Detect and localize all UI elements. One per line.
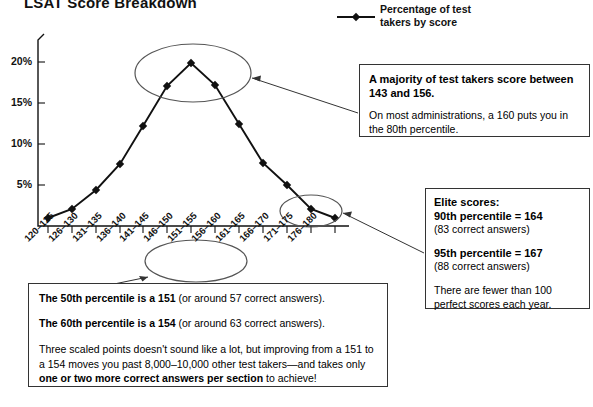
elite-p95-sub: (88 correct answers): [434, 260, 581, 274]
majority-body: On most administrations, a 160 puts you …: [369, 109, 580, 136]
lsat-score-breakdown-figure: LSAT Score Breakdown: [0, 0, 593, 407]
callout-box-percentile: The 50th percentile is a 151 (or around …: [28, 283, 388, 387]
callout-box-elite-scores: Elite scores: 90th percentile = 164 (83 …: [425, 188, 590, 309]
y-tick-label-15: 15%: [0, 96, 32, 108]
elite-p95-label: 95th percentile = 167: [434, 246, 581, 260]
legend-label-line2: takers by score: [380, 16, 530, 29]
y-tick-label-10: 10%: [0, 137, 32, 149]
tail-callout-leader: [343, 213, 424, 253]
y-tick-label-5: 5%: [0, 178, 32, 190]
percentile-row-60: The 60th percentile is a 154 (or around …: [39, 316, 377, 330]
callout-box-majority: A majority of test takers score between …: [359, 64, 590, 137]
peak-callout-leader: [252, 78, 358, 113]
elite-heading: Elite scores:: [434, 195, 581, 209]
percentile-para-a: Three scaled points doesn't sound like a…: [39, 343, 374, 370]
peak-highlight-ellipse: [135, 44, 251, 102]
percentile-60-bold: The 60th percentile is a 154: [39, 317, 176, 329]
percentile-para-bold: one or two more correct answers per sect…: [39, 372, 263, 384]
legend-marker-icon: [337, 13, 375, 21]
percentile-para-b: to achieve!: [263, 372, 317, 384]
data-line: [48, 63, 335, 218]
percentile-50-bold: The 50th percentile is a 151: [39, 292, 176, 304]
elite-footer: There are fewer than 100 perfect scores …: [434, 284, 581, 311]
majority-heading: A majority of test takers score between …: [369, 72, 580, 100]
y-tick-label-20: 20%: [0, 55, 32, 67]
percentile-row-50: The 50th percentile is a 151 (or around …: [39, 291, 377, 305]
percentile-50-rest: (or around 57 correct answers).: [176, 292, 325, 304]
elite-spacer: [434, 237, 581, 246]
peak-callout-arrowhead: [252, 76, 261, 82]
y-axis-ticks: [38, 62, 45, 185]
chart-legend: Percentage of test takers by score: [380, 3, 530, 29]
xlabel-highlight-ellipse: [145, 240, 247, 282]
elite-p90-sub: (83 correct answers): [434, 223, 581, 237]
percentile-paragraph: Three scaled points doesn't sound like a…: [39, 342, 377, 386]
elite-p90-label: 90th percentile = 164: [434, 209, 581, 223]
percentile-60-rest: (or around 63 correct answers).: [176, 317, 325, 329]
legend-label-line1: Percentage of test: [380, 3, 530, 16]
